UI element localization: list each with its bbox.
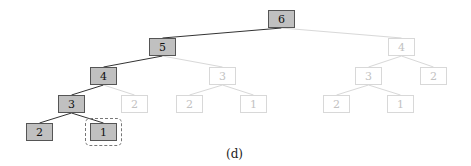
tree-edge [163,56,223,67]
tree-node-2: 2 [121,95,148,113]
tree-node-2: 2 [323,95,350,113]
tree-edge [369,85,401,95]
tree-node-1: 1 [240,95,267,113]
tree-node-1: 1 [387,95,414,113]
tree-node-3: 3 [209,67,236,85]
recursion-tree-diagram: 654433232212121 (d) [0,0,471,166]
tree-node-6: 6 [268,10,295,28]
tree-edge [282,28,402,38]
tree-edge [337,85,369,95]
tree-edge [402,56,434,67]
tree-edge [104,56,163,67]
tree-edge [190,85,223,95]
figure-caption: (d) [226,147,243,161]
tree-node-2: 2 [26,123,53,141]
tree-edge [40,113,72,123]
tree-node-2: 2 [176,95,203,113]
tree-node-2: 2 [420,67,447,85]
tree-node-1: 1 [90,123,117,141]
tree-node-5: 5 [149,38,176,56]
tree-node-4: 4 [388,38,415,56]
tree-edge [163,28,282,38]
tree-edge [104,85,135,95]
tree-node-4: 4 [90,67,117,85]
tree-edge [223,85,254,95]
tree-edge [72,85,104,95]
tree-node-3: 3 [355,67,382,85]
tree-node-3: 3 [58,95,85,113]
tree-edge [369,56,402,67]
